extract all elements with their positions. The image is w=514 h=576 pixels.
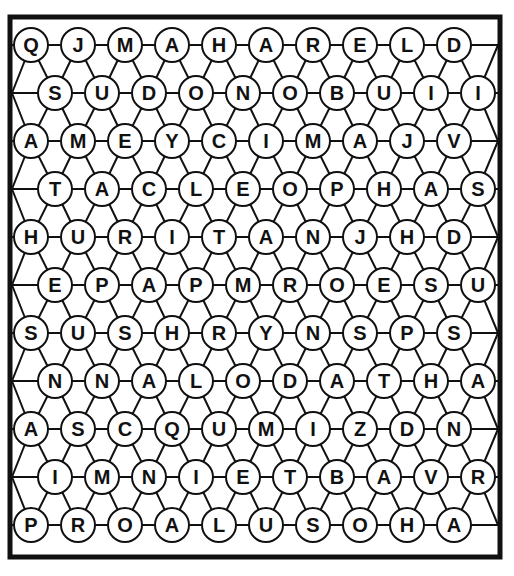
letter-cell[interactable]: A <box>414 172 448 206</box>
letter-cell[interactable]: U <box>61 316 95 350</box>
letter-cell[interactable]: M <box>85 460 119 494</box>
letter-cell[interactable]: Z <box>343 412 377 446</box>
letter-cell[interactable]: O <box>320 268 354 302</box>
letter-cell[interactable]: Y <box>249 316 283 350</box>
letter-cell[interactable]: A <box>155 508 189 542</box>
letter-cell[interactable]: H <box>155 316 189 350</box>
letter-cell[interactable]: Q <box>14 28 48 62</box>
letter-cell[interactable]: A <box>14 124 48 158</box>
letter-cell[interactable]: T <box>367 364 401 398</box>
letter-cell[interactable]: A <box>132 268 166 302</box>
letter-cell[interactable]: S <box>14 316 48 350</box>
letter-cell[interactable]: H <box>14 220 48 254</box>
letter-cell[interactable]: B <box>320 460 354 494</box>
letter-cell[interactable]: S <box>414 268 448 302</box>
letter-cell[interactable]: O <box>108 508 142 542</box>
letter-cell[interactable]: T <box>202 220 236 254</box>
letter-cell[interactable]: P <box>390 316 424 350</box>
letter-cell[interactable]: R <box>61 508 95 542</box>
letter-cell[interactable]: O <box>273 76 307 110</box>
letter-cell[interactable]: S <box>108 316 142 350</box>
letter-cell[interactable]: A <box>155 28 189 62</box>
letter-cell[interactable]: A <box>367 460 401 494</box>
letter-cell[interactable]: I <box>38 460 72 494</box>
letter-cell[interactable]: U <box>461 268 495 302</box>
letter-cell[interactable]: C <box>132 172 166 206</box>
letter-cell[interactable]: L <box>202 508 236 542</box>
letter-cell[interactable]: M <box>226 268 260 302</box>
letter-cell[interactable]: E <box>343 28 377 62</box>
letter-cell[interactable]: I <box>296 412 330 446</box>
letter-cell[interactable]: S <box>38 76 72 110</box>
letter-cell[interactable]: Y <box>155 124 189 158</box>
letter-cell[interactable]: A <box>320 364 354 398</box>
letter-cell[interactable]: A <box>461 364 495 398</box>
letter-cell[interactable]: U <box>202 412 236 446</box>
letter-cell[interactable]: P <box>179 268 213 302</box>
letter-cell[interactable]: S <box>343 316 377 350</box>
letter-cell[interactable]: D <box>273 364 307 398</box>
letter-cell[interactable]: U <box>249 508 283 542</box>
letter-cell[interactable]: E <box>108 124 142 158</box>
letter-cell[interactable]: S <box>437 316 471 350</box>
letter-cell[interactable]: H <box>414 364 448 398</box>
letter-cell[interactable]: T <box>38 172 72 206</box>
letter-cell[interactable]: R <box>202 316 236 350</box>
letter-cell[interactable]: R <box>108 220 142 254</box>
letter-cell[interactable]: M <box>296 124 330 158</box>
letter-cell[interactable]: L <box>390 28 424 62</box>
letter-cell[interactable]: S <box>61 412 95 446</box>
letter-cell[interactable]: E <box>38 268 72 302</box>
letter-cell[interactable]: M <box>108 28 142 62</box>
letter-cell[interactable]: L <box>179 364 213 398</box>
letter-cell[interactable]: O <box>273 172 307 206</box>
letter-cell[interactable]: I <box>414 76 448 110</box>
letter-cell[interactable]: V <box>414 460 448 494</box>
letter-cell[interactable]: J <box>61 28 95 62</box>
letter-cell[interactable]: U <box>61 220 95 254</box>
letter-cell[interactable]: I <box>461 76 495 110</box>
letter-cell[interactable]: P <box>14 508 48 542</box>
letter-cell[interactable]: S <box>461 172 495 206</box>
letter-cell[interactable]: C <box>108 412 142 446</box>
letter-cell[interactable]: P <box>320 172 354 206</box>
letter-cell[interactable]: M <box>61 124 95 158</box>
letter-cell[interactable]: E <box>226 172 260 206</box>
letter-cell[interactable]: O <box>226 364 260 398</box>
letter-cell[interactable]: B <box>320 76 354 110</box>
letter-cell[interactable]: U <box>367 76 401 110</box>
letter-cell[interactable]: A <box>14 412 48 446</box>
letter-cell[interactable]: A <box>85 172 119 206</box>
letter-cell[interactable]: D <box>437 220 471 254</box>
letter-cell[interactable]: N <box>226 76 260 110</box>
letter-cell[interactable]: H <box>390 508 424 542</box>
letter-cell[interactable]: E <box>226 460 260 494</box>
letter-cell[interactable]: O <box>343 508 377 542</box>
letter-cell[interactable]: R <box>461 460 495 494</box>
letter-cell[interactable]: D <box>132 76 166 110</box>
letter-cell[interactable]: S <box>296 508 330 542</box>
letter-cell[interactable]: U <box>85 76 119 110</box>
letter-cell[interactable]: A <box>437 508 471 542</box>
letter-cell[interactable]: N <box>38 364 72 398</box>
letter-cell[interactable]: A <box>249 28 283 62</box>
letter-cell[interactable]: L <box>179 172 213 206</box>
letter-cell[interactable]: C <box>202 124 236 158</box>
letter-cell[interactable]: N <box>132 460 166 494</box>
letter-cell[interactable]: I <box>179 460 213 494</box>
letter-cell[interactable]: M <box>249 412 283 446</box>
letter-cell[interactable]: H <box>367 172 401 206</box>
letter-cell[interactable]: T <box>273 460 307 494</box>
letter-cell[interactable]: H <box>202 28 236 62</box>
letter-cell[interactable]: A <box>132 364 166 398</box>
letter-cell[interactable]: N <box>437 412 471 446</box>
letter-cell[interactable]: J <box>343 220 377 254</box>
letter-cell[interactable]: P <box>85 268 119 302</box>
letter-cell[interactable]: R <box>273 268 307 302</box>
letter-cell[interactable]: N <box>296 316 330 350</box>
letter-cell[interactable]: V <box>437 124 471 158</box>
letter-cell[interactable]: Q <box>155 412 189 446</box>
letter-cell[interactable]: O <box>179 76 213 110</box>
letter-cell[interactable]: J <box>390 124 424 158</box>
letter-cell[interactable]: H <box>390 220 424 254</box>
